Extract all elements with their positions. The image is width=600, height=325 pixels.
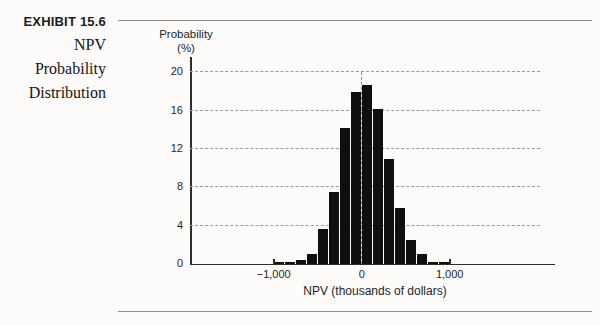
histogram-bar xyxy=(362,85,372,264)
histogram-bar xyxy=(296,260,306,264)
histogram-bar xyxy=(417,254,427,264)
exhibit-figure: EXHIBIT 15.6 NPV Probability Distributio… xyxy=(0,0,600,325)
histogram-bar xyxy=(395,208,405,265)
histogram-bar xyxy=(406,240,416,264)
histogram-bar xyxy=(307,254,317,264)
zero-reference-line xyxy=(361,72,362,264)
histogram-bar xyxy=(340,128,350,264)
x-axis-title: NPV (thousands of dollars) xyxy=(240,284,510,298)
plot-area xyxy=(190,60,555,264)
x-tick-label-0: 0 xyxy=(332,268,392,280)
x-tick-label-1000: 1,000 xyxy=(420,268,480,280)
histogram-bar xyxy=(428,262,438,264)
histogram-bar xyxy=(351,92,361,264)
histogram-bar xyxy=(274,262,284,264)
x-tick-label--1000: −1,000 xyxy=(244,268,304,280)
histogram-bar xyxy=(373,109,383,264)
y-tick-label-8: 8 xyxy=(155,180,183,192)
y-tick-label-0: 0 xyxy=(155,257,183,269)
histogram-bar xyxy=(285,262,295,264)
y-axis-title-line1: Probability xyxy=(136,27,236,41)
histogram-bar xyxy=(318,229,328,264)
x-tick-1000 xyxy=(449,259,451,264)
y-tick-label-20: 20 xyxy=(155,65,183,77)
histogram-bar xyxy=(384,159,394,264)
gridline-20 xyxy=(190,71,540,72)
y-tick-label-16: 16 xyxy=(155,104,183,116)
npv-histogram-chart: Probability (%) 048121620 −1,00001,000 N… xyxy=(0,0,600,325)
y-tick-label-12: 12 xyxy=(155,142,183,154)
y-axis-title-line2: (%) xyxy=(136,41,236,55)
histogram-bar xyxy=(439,262,449,264)
x-tick--1000 xyxy=(273,259,275,264)
histogram-bar xyxy=(329,192,339,264)
y-tick-label-4: 4 xyxy=(155,219,183,231)
y-axis-title: Probability (%) xyxy=(136,27,236,55)
